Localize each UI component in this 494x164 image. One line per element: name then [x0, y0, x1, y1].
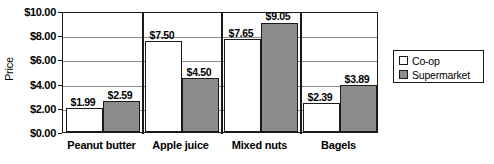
bar-supermarket	[182, 78, 219, 132]
gridline	[63, 61, 377, 62]
legend-item-coop: Co-op	[399, 54, 483, 67]
y-tick-label: $2.00	[2, 103, 56, 115]
category-label: Bagels	[321, 139, 356, 151]
legend-swatch-coop-icon	[399, 56, 408, 65]
category-separator	[300, 13, 302, 134]
gridline	[63, 86, 377, 87]
y-tick-label: $4.00	[2, 79, 56, 91]
bar-value-label: $2.59	[98, 89, 143, 101]
bar-supermarket	[103, 101, 140, 132]
y-tick-mark	[58, 133, 62, 134]
legend-label-coop: Co-op	[412, 55, 440, 67]
y-tick-label: $10.00	[2, 6, 56, 18]
legend-swatch-supermarket-icon	[399, 70, 408, 79]
bar-supermarket	[340, 85, 377, 132]
category-label: Apple juice	[152, 139, 208, 151]
category-label: Peanut butter	[67, 139, 135, 151]
chart-legend: Co-op Supermarket	[393, 50, 484, 83]
y-tick-label: $8.00	[2, 30, 56, 42]
bar-supermarket	[261, 23, 298, 133]
category-label: Mixed nuts	[232, 139, 287, 151]
bar-coop	[66, 108, 103, 132]
bar-value-label: $7.65	[219, 27, 264, 39]
bar-coop	[303, 103, 340, 132]
bar-value-label: $3.89	[335, 73, 380, 85]
bar-chart: Price $0.00$2.00$4.00$6.00$8.00$10.00 $1…	[0, 0, 494, 164]
legend-item-supermarket: Supermarket	[399, 68, 483, 81]
y-tick-label: $6.00	[2, 54, 56, 66]
bar-value-label: $4.50	[177, 66, 222, 78]
legend-label-supermarket: Supermarket	[412, 69, 470, 81]
bar-value-label: $7.50	[140, 29, 185, 41]
bar-coop	[145, 41, 182, 132]
y-tick-label: $0.00	[2, 127, 56, 139]
bar-coop	[224, 39, 261, 132]
bar-value-label: $9.05	[256, 10, 301, 22]
bar-value-label: $2.39	[298, 91, 343, 103]
